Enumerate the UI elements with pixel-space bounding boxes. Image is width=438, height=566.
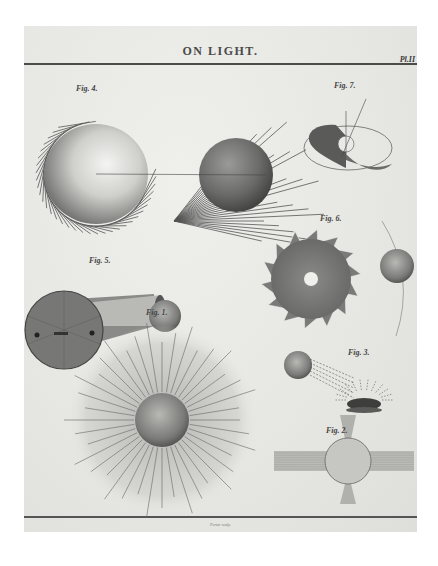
fig-3-spark — [352, 380, 357, 391]
fig-3-spark — [335, 394, 347, 397]
fig-2-label: Fig. 2. — [326, 426, 348, 435]
fig-3-spark — [371, 380, 376, 391]
fig-2-lens — [325, 438, 371, 484]
fig-1-label: Fig. 1. — [146, 308, 168, 317]
fig-3-ray — [310, 375, 354, 398]
fig-3-ray — [310, 367, 354, 388]
plate-illustrations — [24, 26, 417, 532]
fig-5-label: Fig. 5. — [89, 256, 111, 265]
fig-7-illustration — [304, 99, 392, 170]
fig-3-spark — [344, 383, 352, 392]
engraved-plate: ON LIGHT. Pl.II Porter sculp. — [24, 26, 417, 532]
fig-3-spark — [376, 383, 384, 392]
fig-3-illustration — [284, 351, 394, 413]
fig-3-ray — [310, 371, 354, 393]
fig-6-illustration — [261, 221, 414, 336]
fig-4-illustration — [36, 121, 324, 247]
fig-4-label: Fig. 4. — [76, 84, 98, 93]
fig-7-label: Fig. 7. — [334, 81, 356, 90]
fig-1-sun — [135, 393, 189, 447]
fig-3-spark — [379, 388, 389, 394]
fig-3-sun — [284, 351, 312, 379]
fig-3-label: Fig. 3. — [348, 348, 370, 357]
fig-3-spark — [339, 388, 349, 394]
fig-3-ray — [310, 359, 354, 378]
fig-6-label: Fig. 6. — [320, 214, 342, 223]
fig-3-spark — [381, 394, 393, 397]
fig-4-ray — [174, 221, 294, 232]
fig-3-spark — [367, 378, 369, 390]
fig-3-ray — [310, 363, 354, 383]
fig-6-planet — [380, 249, 414, 283]
fig-3-spark — [360, 378, 362, 390]
fig-6-hole — [304, 272, 318, 286]
